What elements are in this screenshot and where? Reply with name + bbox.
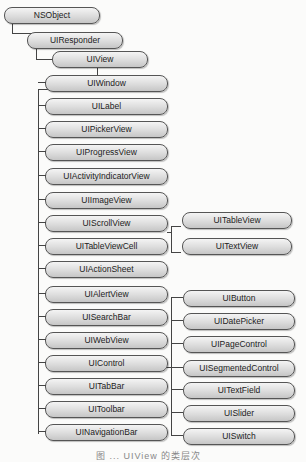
node-ui-image-view: UIImageView bbox=[45, 192, 168, 209]
connector bbox=[38, 175, 46, 176]
node-ui-table-view: UITableView bbox=[182, 212, 292, 229]
node-ui-search-bar: UISearchBar bbox=[45, 309, 168, 326]
connector bbox=[38, 408, 46, 409]
node-ui-progress-view: UIProgressView bbox=[45, 144, 168, 161]
node-ui-window: UIWindow bbox=[45, 75, 168, 92]
connector bbox=[171, 297, 183, 298]
node-uiresponder: UIResponder bbox=[27, 32, 123, 49]
connector bbox=[38, 316, 46, 317]
connector bbox=[38, 128, 46, 129]
node-ui-control: UIControl bbox=[45, 355, 168, 372]
connector bbox=[171, 297, 172, 435]
connector bbox=[171, 320, 183, 321]
connector bbox=[171, 252, 181, 253]
connector bbox=[38, 362, 46, 363]
node-ui-segmented-control: UISegmentedControl bbox=[183, 360, 295, 377]
connector bbox=[38, 82, 46, 83]
connector bbox=[167, 232, 172, 233]
node-ui-tab-bar: UITabBar bbox=[45, 378, 168, 395]
connector bbox=[38, 293, 46, 294]
connector bbox=[171, 412, 183, 413]
node-ui-navigation-bar: UINavigationBar bbox=[45, 424, 168, 441]
node-ui-table-view-cell: UITableViewCell bbox=[45, 238, 168, 255]
connector bbox=[38, 151, 46, 152]
connector bbox=[38, 339, 46, 340]
connector bbox=[171, 389, 183, 390]
node-ui-scroll-view: UIScrollView bbox=[45, 215, 168, 232]
connector bbox=[38, 385, 46, 386]
node-uiview: UIView bbox=[52, 51, 148, 68]
node-ui-web-view: UIWebView bbox=[45, 332, 168, 349]
node-ui-toolbar: UIToolbar bbox=[45, 401, 168, 418]
connector bbox=[171, 435, 183, 436]
node-ui-activity-indicator-view: UIActivityIndicatorView bbox=[45, 168, 168, 185]
node-ui-date-picker: UIDatePicker bbox=[183, 313, 295, 330]
connector bbox=[38, 245, 46, 246]
node-ui-action-sheet: UIActionSheet bbox=[45, 261, 168, 278]
connector bbox=[38, 105, 46, 106]
node-ui-slider: UISlider bbox=[183, 405, 295, 422]
connector bbox=[171, 226, 181, 227]
connector bbox=[38, 222, 46, 223]
connector bbox=[38, 89, 39, 434]
node-ui-picker-view: UIPickerView bbox=[45, 121, 168, 138]
connector bbox=[36, 59, 52, 60]
connector bbox=[171, 343, 183, 344]
node-ui-label: UILabel bbox=[45, 98, 168, 115]
node-ui-text-view: UITextView bbox=[182, 238, 292, 255]
figure-caption: 图 ... UIView 的类层次 bbox=[96, 449, 201, 462]
node-ui-switch: UISwitch bbox=[183, 428, 295, 445]
connector bbox=[38, 268, 46, 269]
connector bbox=[171, 226, 172, 252]
node-ui-button: UIButton bbox=[183, 290, 295, 307]
node-nsobject: NSObject bbox=[4, 7, 100, 24]
connector bbox=[38, 199, 46, 200]
connector bbox=[171, 367, 183, 368]
node-ui-alert-view: UIAlertView bbox=[45, 286, 168, 303]
node-ui-page-control: UIPageControl bbox=[183, 336, 295, 353]
connector bbox=[38, 431, 46, 432]
node-ui-text-field: UITextField bbox=[183, 382, 295, 399]
